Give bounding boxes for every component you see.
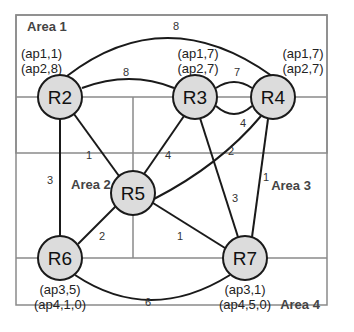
router-label: R5 bbox=[121, 183, 145, 204]
cost-r2-r6: 3 bbox=[47, 174, 53, 186]
r3-ap-1: (ap1,7) bbox=[177, 46, 218, 61]
area-label-1: Area 1 bbox=[27, 19, 67, 34]
area-label-3: Area 3 bbox=[271, 178, 311, 193]
router-r3: R3 bbox=[173, 75, 217, 119]
link-r2-r4-arc bbox=[67, 38, 272, 76]
link-r5-r6 bbox=[78, 206, 116, 244]
cost-r3-r4-lower: 4 bbox=[240, 117, 246, 129]
cost-r3-r7: 3 bbox=[232, 192, 238, 204]
cost-r4-r5: 2 bbox=[228, 145, 234, 157]
link-r5-r7 bbox=[153, 203, 225, 248]
cost-r4-r7: 1 bbox=[263, 171, 269, 183]
router-label: R6 bbox=[48, 248, 72, 269]
link-r3-r4-lower bbox=[216, 106, 252, 114]
cost-r6-r7: 6 bbox=[145, 296, 151, 308]
link-r3-r7 bbox=[200, 118, 238, 237]
r2-ap-1: (ap1,1) bbox=[21, 46, 62, 61]
link-r3-r4-upper bbox=[216, 82, 252, 88]
router-label: R7 bbox=[233, 248, 257, 269]
cost-r5-r7: 1 bbox=[177, 230, 183, 242]
cost-r2-r4: 8 bbox=[173, 20, 179, 32]
cost-r2-r5: 1 bbox=[86, 149, 92, 161]
network-diagram: 8 8 7 4 1 3 4 2 3 1 2 1 6 Area 1 Area 2 … bbox=[0, 0, 354, 332]
router-label: R3 bbox=[183, 87, 207, 108]
router-label: R4 bbox=[261, 87, 286, 108]
cost-r3-r4-upper: 7 bbox=[234, 66, 240, 78]
router-r6: R6 bbox=[38, 236, 82, 280]
area-label-2: Area 2 bbox=[71, 177, 111, 192]
link-r3-r5 bbox=[144, 116, 184, 174]
cost-r3-r5: 4 bbox=[165, 149, 171, 161]
r6-ap-2: (ap4,1,0) bbox=[34, 297, 86, 312]
r3-ap-2: (ap2,7) bbox=[177, 61, 218, 76]
r4-ap-2: (ap2,7) bbox=[282, 61, 323, 76]
link-r6-r7-arc bbox=[75, 275, 230, 300]
link-r2-r3 bbox=[82, 79, 174, 88]
r7-ap-1: (ap3,1) bbox=[224, 282, 265, 297]
r6-ap-1: (ap3,5) bbox=[39, 282, 80, 297]
router-r2: R2 bbox=[38, 75, 82, 119]
link-r2-r5 bbox=[74, 114, 119, 176]
router-r7: R7 bbox=[223, 236, 267, 280]
r7-ap-2: (ap4,5,0) bbox=[219, 297, 271, 312]
cost-r5-r6: 2 bbox=[99, 230, 105, 242]
r2-ap-2: (ap2,8) bbox=[21, 61, 62, 76]
router-label: R2 bbox=[48, 87, 72, 108]
r4-ap-1: (ap1,7) bbox=[282, 46, 323, 61]
router-r4: R4 bbox=[251, 75, 295, 119]
area-label-4: Area 4 bbox=[280, 297, 321, 312]
router-r5: R5 bbox=[111, 171, 155, 215]
cost-r2-r3: 8 bbox=[123, 66, 129, 78]
